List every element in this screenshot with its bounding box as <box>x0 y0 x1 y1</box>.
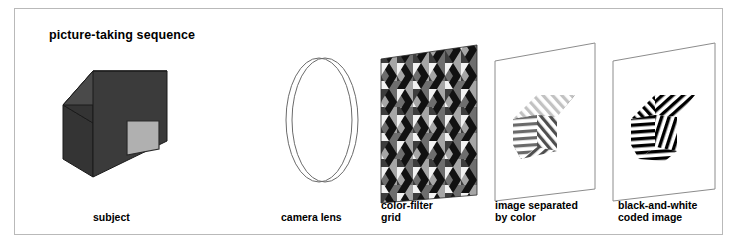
figure-frame: picture-taking sequence subject <box>14 8 723 235</box>
stage-label-subject: subject <box>93 212 130 224</box>
stage-image-separated-by-color: image separated by color <box>487 37 612 233</box>
stage-label-image-separated: image separated by color <box>495 200 578 223</box>
stage-label-color-filter-grid: color-filter grid <box>381 200 433 223</box>
stage-color-filter-grid: color-filter grid <box>373 37 493 233</box>
stage-subject: subject <box>41 37 209 233</box>
striped-house-sheet-icon <box>487 37 612 207</box>
stage-black-and-white-coded-image: black-and-white coded image <box>603 37 733 233</box>
hex-filter-grid-icon <box>373 37 493 207</box>
stage-label-camera-lens: camera lens <box>281 212 342 224</box>
house-3d-icon <box>41 37 209 187</box>
bw-striped-house-sheet-icon <box>603 37 733 207</box>
stage-label-bw-coded-image: black-and-white coded image <box>618 200 697 223</box>
